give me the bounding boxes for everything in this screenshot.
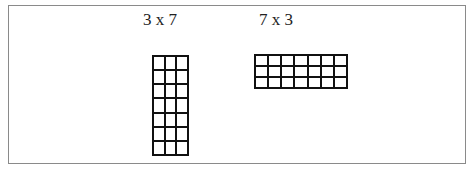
grid-cell: [176, 70, 188, 84]
array-grid-3x7: [152, 55, 189, 156]
grid-cell: [281, 77, 294, 88]
grid-cell: [321, 55, 334, 66]
grid-cell: [165, 70, 177, 84]
grid-cell: [153, 84, 165, 98]
grid-cell: [165, 127, 177, 141]
grid-cell: [334, 77, 347, 88]
array-grid-7x3: [254, 54, 348, 89]
grid-cell: [165, 141, 177, 155]
grid-cell: [294, 77, 307, 88]
grid-cell: [153, 141, 165, 155]
grid-cell: [321, 77, 334, 88]
grid-cell: [165, 56, 177, 70]
grid-cell: [308, 66, 321, 77]
grid-cell: [176, 56, 188, 70]
grid-cell: [255, 66, 268, 77]
grid-cell: [165, 113, 177, 127]
grid-cell: [255, 55, 268, 66]
grid-cell: [153, 98, 165, 112]
grid-cell: [308, 77, 321, 88]
grid-cell: [294, 66, 307, 77]
grid-cell: [176, 98, 188, 112]
grid-cell: [153, 56, 165, 70]
grid-cell: [294, 55, 307, 66]
grid-cell: [176, 84, 188, 98]
grid-cell: [176, 141, 188, 155]
grid-cell: [153, 113, 165, 127]
right-array-label: 7 x 3: [259, 10, 293, 30]
grid-cell: [308, 55, 321, 66]
grid-cell: [255, 77, 268, 88]
grid-cell: [334, 66, 347, 77]
grid-cell: [153, 127, 165, 141]
left-array-label: 3 x 7: [143, 10, 177, 30]
grid-cell: [268, 55, 281, 66]
grid-cell: [165, 98, 177, 112]
grid-cell: [153, 70, 165, 84]
grid-cell: [281, 55, 294, 66]
grid-cell: [281, 66, 294, 77]
grid-cell: [176, 113, 188, 127]
grid-cell: [334, 55, 347, 66]
grid-cell: [165, 84, 177, 98]
grid-cell: [268, 66, 281, 77]
grid-cell: [176, 127, 188, 141]
grid-cell: [268, 77, 281, 88]
diagram-frame: [8, 5, 466, 164]
grid-cell: [321, 66, 334, 77]
